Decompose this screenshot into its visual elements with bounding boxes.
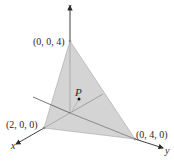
x-axis-label: x: [11, 141, 15, 151]
vertex-z-dot: [69, 40, 72, 43]
vertex-x-label: (2, 0, 0): [6, 120, 38, 130]
diagram-canvas: z x y (0, 0, 4) (2, 0, 0) (0, 4, 0) P: [0, 0, 174, 167]
tetrahedron-figure: [0, 0, 174, 167]
y-axis: [135, 139, 163, 148]
point-p-label: P: [75, 87, 82, 98]
vertex-y-label: (0, 4, 0): [136, 130, 168, 140]
x-axis: [16, 128, 44, 144]
vertex-z-label: (0, 0, 4): [33, 37, 65, 47]
plane-face: [44, 41, 135, 139]
z-axis-label: z: [68, 2, 72, 11]
vertex-x-dot: [43, 127, 46, 130]
y-axis-label: y: [165, 146, 169, 156]
